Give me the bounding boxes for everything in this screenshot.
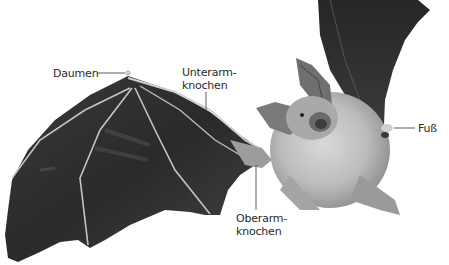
label-oberarm-line1: Oberarm- <box>236 212 287 225</box>
bat-head <box>256 58 338 140</box>
label-unterarm-line2: knochen <box>182 79 237 92</box>
label-unterarmknochen: Unterarm- knochen <box>182 66 237 92</box>
left-wing <box>5 71 268 262</box>
label-daumen: Daumen <box>53 67 98 80</box>
bat-illustration <box>0 0 449 265</box>
label-unterarm-line1: Unterarm- <box>182 66 237 79</box>
label-oberarm-line2: knochen <box>236 225 287 238</box>
label-oberarmknochen: Oberarm- knochen <box>236 212 287 238</box>
bat-anatomy-figure: Daumen Unterarm- knochen Oberarm- knoche… <box>0 0 449 265</box>
label-fuss: Fuß <box>418 122 437 135</box>
